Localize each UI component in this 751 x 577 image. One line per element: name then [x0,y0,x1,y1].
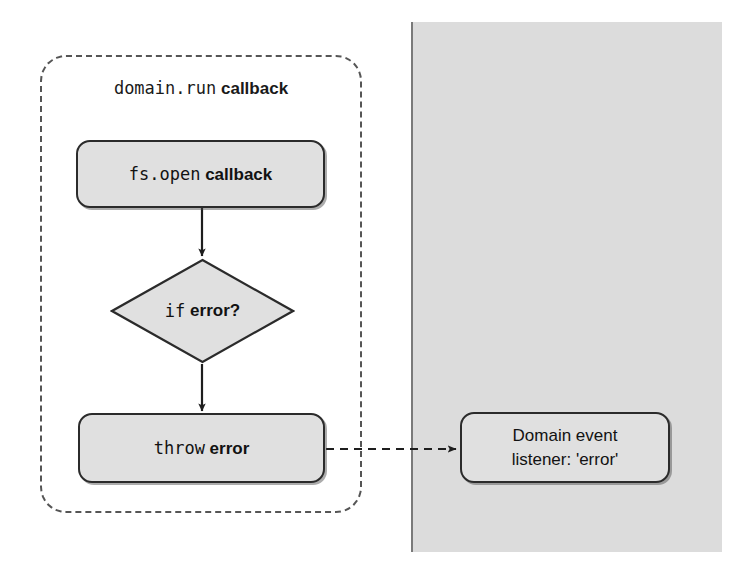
node-fs-open-callback[interactable]: fs.open callback [76,140,325,208]
node-domain-event-listener[interactable]: Domain eventlistener: 'error' [460,412,670,483]
node-domain-event-listener-line1: Domain event [513,426,618,445]
node-domain-event-listener-text: Domain eventlistener: 'error' [512,424,619,472]
diagram-canvas: domain.run callback fs.open callback [0,0,751,577]
node-fs-open-callback-mono: fs.open [129,164,201,184]
node-throw-error-sans: error [210,439,250,458]
node-if-error-mono: if [165,301,185,321]
node-fs-open-callback-sans: callback [205,165,272,184]
node-fs-open-callback-text: fs.open callback [129,163,273,186]
node-throw-error-mono: throw [154,438,205,458]
node-throw-error[interactable]: throw error [78,413,325,483]
domain-run-region-label-sans: callback [221,79,288,98]
domain-run-region-label-mono: domain.run [114,78,216,98]
node-domain-event-listener-line2: listener: 'error' [512,450,619,469]
node-if-error-text: if error? [110,258,295,364]
node-if-error[interactable]: if error? [110,258,295,364]
node-throw-error-text: throw error [154,437,250,460]
node-if-error-sans: error? [190,301,240,321]
domain-run-region-label: domain.run callback [40,77,362,100]
